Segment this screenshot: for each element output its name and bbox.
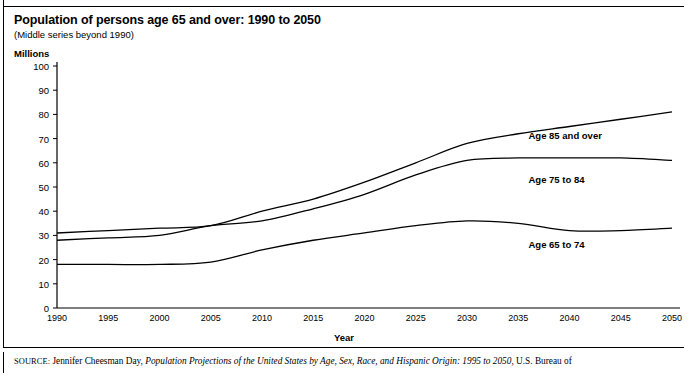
x-tick-label: 2010	[242, 313, 282, 323]
x-tick-label: 2000	[140, 313, 180, 323]
x-tick-label: 2030	[447, 313, 487, 323]
source-label: SOURCE:	[14, 357, 50, 366]
x-tick-label: 2040	[550, 313, 590, 323]
source-author: Jennifer Cheesman Day,	[50, 356, 145, 366]
x-tick-label: 2020	[345, 313, 385, 323]
y-tick-label: 50	[19, 182, 49, 193]
frame-left-rule-lower	[3, 352, 4, 373]
figure-page: Population of persons age 65 and over: 1…	[0, 0, 688, 373]
source-note: SOURCE: Jennifer Cheesman Day, Populatio…	[14, 356, 572, 366]
y-tick-label: 20	[19, 254, 49, 265]
series-label: Age 75 to 84	[529, 174, 585, 185]
chart-canvas	[0, 0, 688, 348]
source-work-title: Population Projections of the United Sta…	[145, 356, 511, 366]
x-tick-label: 1995	[88, 313, 128, 323]
y-tick-label: 10	[19, 278, 49, 289]
series-label: Age 65 to 74	[529, 239, 585, 250]
y-tick-label: 90	[19, 85, 49, 96]
x-tick-label: 2045	[601, 313, 641, 323]
y-tick-label: 40	[19, 206, 49, 217]
source-publisher: , U.S. Bureau of	[511, 356, 571, 366]
x-tick-label: 2050	[652, 313, 688, 323]
y-tick-label: 30	[19, 230, 49, 241]
x-axis-title: Year	[0, 332, 688, 343]
y-tick-label: 0	[19, 303, 49, 314]
y-tick-label: 100	[19, 61, 49, 72]
x-tick-label: 2015	[293, 313, 333, 323]
x-tick-label: 2005	[191, 313, 231, 323]
x-tick-label: 1990	[37, 313, 77, 323]
y-tick-label: 60	[19, 157, 49, 168]
y-tick-label: 70	[19, 133, 49, 144]
y-tick-label: 80	[19, 109, 49, 120]
series-label: Age 85 and over	[529, 130, 602, 141]
plot-area	[0, 0, 688, 348]
x-tick-label: 2035	[498, 313, 538, 323]
x-tick-label: 2025	[396, 313, 436, 323]
